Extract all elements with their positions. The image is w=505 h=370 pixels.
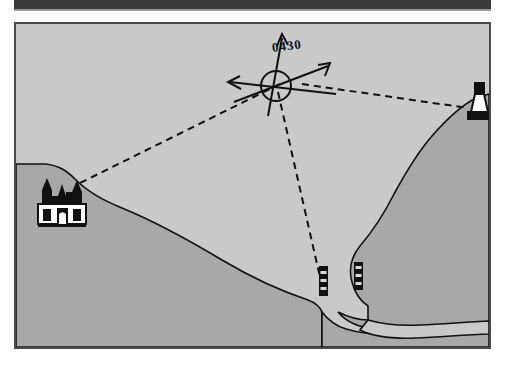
beacon-east-band-b [356,274,362,277]
lighthouse-tower [471,94,488,112]
beacon-east-band-a [356,266,362,269]
beacon-east-symbol [354,262,363,290]
lighthouse-lantern [474,82,485,94]
church-symbol [38,178,86,227]
beacon-west-band-c [321,287,327,290]
chart-panel: 0430 [14,22,491,349]
page-root: 0430 [0,0,505,370]
church-ground-line [38,224,86,227]
church-window-left [43,209,51,221]
beacon-east-band-c [356,282,362,285]
lighthouse-base [467,111,489,120]
church-door-inner [59,212,66,224]
beacon-west-band-a [321,271,327,274]
scan-top-bar-shadow [14,9,491,11]
church-window-right [73,209,81,221]
chart-drawing [16,24,489,347]
beacon-west-symbol [319,266,328,296]
beacon-west-band-b [321,279,327,282]
scan-top-bar [14,0,491,9]
